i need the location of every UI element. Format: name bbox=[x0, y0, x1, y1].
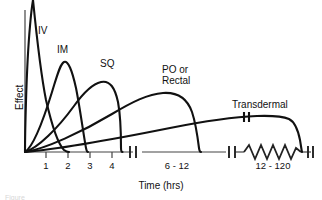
curve-label-im: IM bbox=[57, 44, 68, 55]
x-tick-label-1: 1 bbox=[38, 161, 54, 171]
axis-break-after-12hrs bbox=[229, 146, 235, 158]
figure-caption-fragment: Figure bbox=[5, 194, 25, 200]
y-axis-title: Effect bbox=[14, 85, 25, 110]
x-span-label-6-12: 6 - 12 bbox=[155, 161, 199, 171]
curve-label-po-rectal-line2: Rectal bbox=[162, 75, 190, 86]
x-span-label-12-120: 12 - 120 bbox=[248, 161, 298, 171]
curve-label-iv: IV bbox=[38, 25, 47, 36]
x-tick-label-3: 3 bbox=[82, 161, 98, 171]
axis-zigzag-compression bbox=[244, 145, 301, 159]
curve-label-transdermal: Transdermal bbox=[232, 99, 288, 110]
curve-iv bbox=[25, 0, 33, 152]
curve-label-po-rectal-line1: PO or bbox=[162, 64, 188, 75]
pharmacokinetics-figure: Effect Time (hrs) 1 2 3 4 6 - 12 12 - 12… bbox=[0, 0, 322, 200]
x-axis-title: Time (hrs) bbox=[0, 180, 322, 191]
curve-label-po-rectal: PO or Rectal bbox=[162, 64, 190, 86]
curve-label-sq: SQ bbox=[100, 58, 114, 69]
x-tick-label-2: 2 bbox=[60, 161, 76, 171]
x-tick-label-4: 4 bbox=[104, 161, 120, 171]
